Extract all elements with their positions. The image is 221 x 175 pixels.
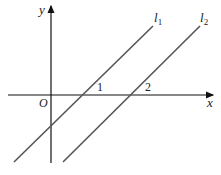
- line-l2-label: l2: [200, 10, 208, 27]
- line-l1-subscript: 1: [158, 17, 163, 27]
- origin-label: O: [39, 96, 48, 110]
- line-l2-subscript: 2: [204, 17, 209, 27]
- y-axis-label: y: [37, 2, 45, 17]
- coordinate-diagram: y x O 1 2 l1 l2: [0, 0, 221, 175]
- x-tick-1: 1: [97, 80, 103, 94]
- line-l1-label: l1: [154, 10, 162, 27]
- x-tick-2: 2: [145, 80, 151, 94]
- x-axis-label: x: [206, 95, 213, 110]
